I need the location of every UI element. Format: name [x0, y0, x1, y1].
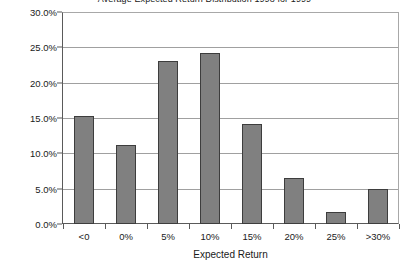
x-axis-tick-label: 10% [200, 231, 219, 242]
y-axis-tick-mark [57, 82, 62, 83]
bar-0pct [116, 145, 136, 224]
y-axis-tick-label: 15.0% [0, 113, 57, 124]
x-axis-tick-mark [273, 224, 274, 229]
x-axis-tick-label: 25% [326, 231, 345, 242]
chart-screenshot: Average Expected Return Distribution 199… [0, 0, 409, 268]
y-axis-tick-mark [57, 188, 62, 189]
y-axis-tick-mark [57, 12, 62, 13]
x-axis-tick-mark [147, 224, 148, 229]
y-axis-tick-label: 30.0% [0, 7, 57, 18]
x-axis-tick-label: >30% [366, 231, 391, 242]
bar-gt30pct [368, 189, 388, 224]
y-axis-tick-mark [57, 118, 62, 119]
x-axis-tick-label: 20% [284, 231, 303, 242]
x-axis-tick-mark [357, 224, 358, 229]
y-axis-tick-mark [57, 224, 62, 225]
y-axis-tick-label: 5.0% [0, 183, 57, 194]
bar-25pct [326, 212, 346, 224]
x-axis-tick-label: 15% [242, 231, 261, 242]
x-axis-title: Expected Return [62, 249, 399, 260]
x-axis-tick-mark [105, 224, 106, 229]
y-axis-tick-label: 0.0% [0, 219, 57, 230]
y-axis-tick-label: 20.0% [0, 77, 57, 88]
x-axis-tick-mark [189, 224, 190, 229]
x-axis-tick-mark [399, 224, 400, 229]
y-axis-tick-mark [57, 153, 62, 154]
bar-20pct [284, 178, 304, 224]
bar-15pct [242, 124, 262, 224]
x-axis-tick-label: 5% [161, 231, 175, 242]
y-axis-tick-label: 10.0% [0, 148, 57, 159]
y-axis-tick-mark [57, 47, 62, 48]
x-axis-tick-mark [63, 224, 64, 229]
x-axis-tick-mark [231, 224, 232, 229]
x-axis-tick-mark [315, 224, 316, 229]
chart-title: Average Expected Return Distribution 199… [0, 0, 409, 4]
x-axis-tick-label: <0 [79, 231, 90, 242]
y-axis-tick-label: 25.0% [0, 42, 57, 53]
bar-10pct [200, 53, 220, 224]
x-axis-tick-label: 0% [119, 231, 133, 242]
bar-lt0 [74, 116, 94, 224]
bars-layer [63, 12, 399, 224]
bar-5pct [158, 61, 178, 224]
